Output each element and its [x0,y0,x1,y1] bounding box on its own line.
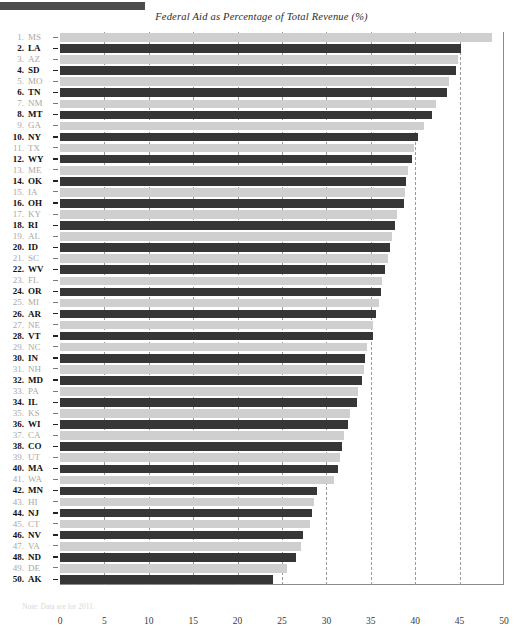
bar-in[interactable] [60,354,365,363]
bar-row[interactable]: 4.SD [0,65,523,76]
bar-mt[interactable] [60,111,432,120]
bar-row[interactable]: 6.TN [0,87,523,98]
bar-ar[interactable] [60,310,376,319]
bar-row[interactable]: 22.WV [0,264,523,275]
bar-nh[interactable] [60,365,364,374]
bar-row[interactable]: 27.NE [0,320,523,331]
bar-row[interactable]: 33.PA [0,386,523,397]
bar-row[interactable]: 47.VA [0,541,523,552]
bar-row[interactable]: 11.TX [0,143,523,154]
bar-ak[interactable] [60,575,273,584]
bar-wa[interactable] [60,476,334,485]
bar-ma[interactable] [60,465,338,474]
bar-row[interactable]: 9.GA [0,120,523,131]
bar-tn[interactable] [60,88,447,97]
bar-row[interactable]: 31.NH [0,364,523,375]
bar-row[interactable]: 16.OH [0,198,523,209]
bar-row[interactable]: 24.OR [0,286,523,297]
bar-tx[interactable] [60,144,414,153]
bar-row[interactable]: 35.KS [0,408,523,419]
bar-row[interactable]: 26.AR [0,309,523,320]
bar-row[interactable]: 28.VT [0,331,523,342]
bar-ky[interactable] [60,210,397,219]
bar-row[interactable]: 40.MA [0,463,523,474]
bar-ia[interactable] [60,188,405,197]
bar-row[interactable]: 1.MS [0,32,523,43]
bar-mn[interactable] [60,487,317,496]
bar-ok[interactable] [60,177,406,186]
bar-wy[interactable] [60,155,412,164]
bar-ks[interactable] [60,409,350,418]
bar-row[interactable]: 29.NC [0,342,523,353]
bar-row[interactable]: 34.IL [0,397,523,408]
bar-row[interactable]: 13.ME [0,165,523,176]
bar-row[interactable]: 20.ID [0,242,523,253]
bar-row[interactable]: 48.ND [0,552,523,563]
bar-row[interactable]: 15.IA [0,187,523,198]
bar-de[interactable] [60,564,287,573]
bar-row[interactable]: 39.UT [0,452,523,463]
bar-sd[interactable] [60,66,456,75]
bar-row[interactable]: 21.SC [0,253,523,264]
bar-row[interactable]: 25.MI [0,297,523,308]
bar-row[interactable]: 12.WY [0,154,523,165]
bar-row[interactable]: 41.WA [0,474,523,485]
bar-row[interactable]: 5.MO [0,76,523,87]
bar-row[interactable]: 50.AK [0,574,523,585]
bar-oh[interactable] [60,199,404,208]
bar-row[interactable]: 38.CO [0,441,523,452]
bar-ne[interactable] [60,321,373,330]
bar-nj[interactable] [60,509,312,518]
bar-row[interactable]: 8.MT [0,109,523,120]
bar-ga[interactable] [60,122,424,131]
bar-row[interactable]: 17.KY [0,209,523,220]
bar-ny[interactable] [60,133,418,142]
bar-row[interactable]: 44.NJ [0,508,523,519]
bar-row[interactable]: 43.HI [0,497,523,508]
bar-mo[interactable] [60,77,449,86]
bar-row[interactable]: 37.CA [0,430,523,441]
bar-pa[interactable] [60,387,358,396]
bar-row[interactable]: 19.AL [0,231,523,242]
bar-row[interactable]: 2.LA [0,43,523,54]
bar-row[interactable]: 7.NM [0,98,523,109]
bar-wi[interactable] [60,420,348,429]
bar-ms[interactable] [60,33,492,42]
bar-ut[interactable] [60,453,340,462]
bar-row[interactable]: 18.RI [0,220,523,231]
bar-wv[interactable] [60,265,385,274]
bar-vt[interactable] [60,332,373,341]
bar-md[interactable] [60,376,362,385]
bar-nc[interactable] [60,343,367,352]
bar-sc[interactable] [60,254,388,263]
bar-me[interactable] [60,166,408,175]
bar-row[interactable]: 42.MN [0,485,523,496]
bar-fl[interactable] [60,277,382,286]
bar-il[interactable] [60,398,357,407]
bar-row[interactable]: 10.NY [0,132,523,143]
bar-ca[interactable] [60,431,344,440]
bar-nv[interactable] [60,531,303,540]
bar-ct[interactable] [60,520,310,529]
bar-co[interactable] [60,442,342,451]
bar-row[interactable]: 45.CT [0,519,523,530]
bar-row[interactable]: 32.MD [0,375,523,386]
bar-or[interactable] [60,288,381,297]
bar-la[interactable] [60,44,461,53]
bar-va[interactable] [60,542,301,551]
bar-row[interactable]: 46.NV [0,530,523,541]
bar-row[interactable]: 36.WI [0,419,523,430]
bar-nm[interactable] [60,100,436,109]
bar-hi[interactable] [60,498,314,507]
bar-al[interactable] [60,232,392,241]
bar-row[interactable]: 30.IN [0,353,523,364]
bar-nd[interactable] [60,553,296,562]
bar-row[interactable]: 3.AZ [0,54,523,65]
bar-az[interactable] [60,55,458,64]
bar-row[interactable]: 23.FL [0,275,523,286]
bar-row[interactable]: 14.OK [0,176,523,187]
bar-ri[interactable] [60,221,395,230]
bar-row[interactable]: 49.DE [0,563,523,574]
bar-id[interactable] [60,243,390,252]
bar-mi[interactable] [60,299,379,308]
